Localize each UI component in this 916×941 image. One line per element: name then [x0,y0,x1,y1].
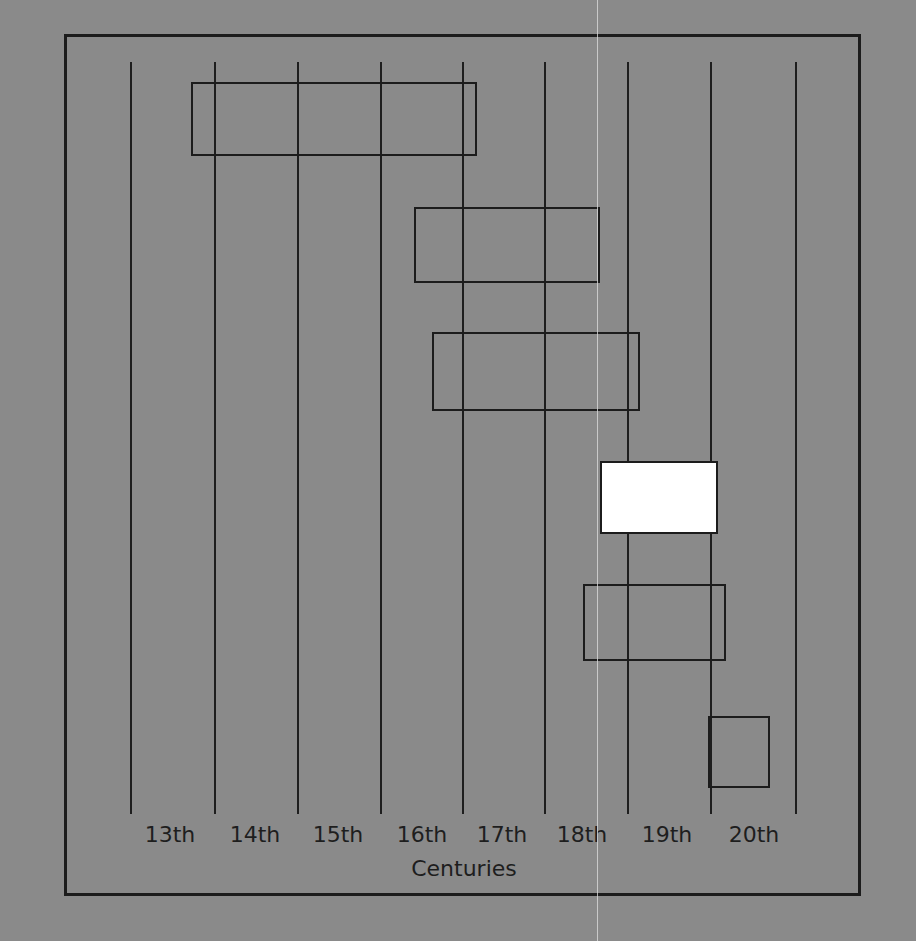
gridline-1700 [544,62,546,814]
tick-label-16th: 16th [380,822,464,847]
timeline-bar-6 [708,716,770,788]
timeline-bar-4-highlighted [600,461,718,534]
tick-label-15th: 15th [296,822,380,847]
gridline-1800 [627,62,629,814]
x-axis-title: Centuries [0,856,916,881]
timeline-bar-3 [432,332,640,411]
tick-label-20th: 20th [712,822,796,847]
gridline-1300 [214,62,216,814]
timeline-bar-5 [583,584,726,661]
tick-label-17th: 17th [460,822,544,847]
gridline-1600 [462,62,464,814]
scan-artifact-line [597,0,598,941]
timeline-bar-1 [191,82,477,156]
tick-label-14th: 14th [213,822,297,847]
gridline-2000 [795,62,797,814]
tick-label-18th: 18th [540,822,624,847]
timeline-bar-2 [414,207,600,283]
tick-label-19th: 19th [625,822,709,847]
tick-label-13th: 13th [128,822,212,847]
gridline-1200 [130,62,132,814]
gridline-1500 [380,62,382,814]
gridline-1400 [297,62,299,814]
gridline-1900 [710,62,712,814]
